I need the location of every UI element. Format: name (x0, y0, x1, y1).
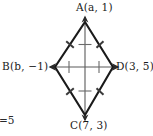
diagonal-bd (49, 61, 120, 73)
vertex-label-c: C(7, 3) (70, 120, 108, 131)
kite-outline (55, 22, 113, 115)
vertex-label-b: B(b, −1) (2, 61, 48, 72)
stray-equation-fragment: =5 (0, 115, 14, 126)
vertex-label-a: A(a, 1) (76, 2, 113, 13)
geometry-figure: A(a, 1) B(b, −1) D(3, 5) C(7, 3) =5 (0, 0, 153, 136)
vertex-label-d: D(3, 5) (116, 61, 153, 72)
